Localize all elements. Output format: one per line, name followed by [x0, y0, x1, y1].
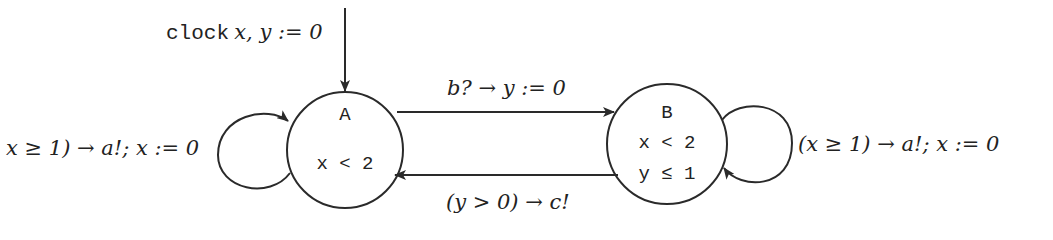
state-a-name: A: [325, 106, 365, 125]
self-loop-a-label: x ≥ 1) → a!; x := 0: [6, 138, 199, 159]
self-loop-b: [722, 106, 792, 182]
self-loop-b-label: (x ≥ 1) → a!; x := 0: [798, 134, 999, 155]
initial-keyword: clock: [166, 22, 229, 45]
state-b-invariant-x: x < 2: [627, 134, 707, 153]
initial-label: clock x, y := 0: [166, 22, 323, 44]
initial-declaration: x, y := 0: [234, 20, 322, 44]
self-loop-a: [218, 114, 290, 189]
edge-b-to-a-label: (y > 0) → c!: [446, 192, 570, 213]
state-a-invariant: x < 2: [305, 155, 385, 174]
state-b-name: B: [647, 104, 687, 123]
edge-a-to-b-label: b? → y := 0: [447, 78, 566, 99]
state-b-invariant-y: y ≤ 1: [627, 165, 707, 184]
